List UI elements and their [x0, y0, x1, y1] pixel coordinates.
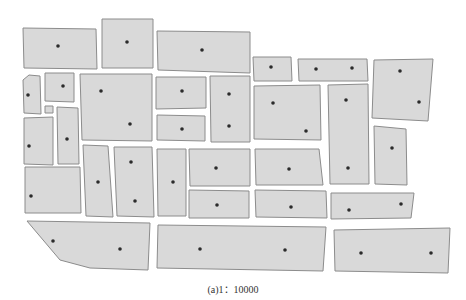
parcel-25 — [255, 149, 323, 185]
point-marker-icon — [215, 203, 219, 207]
parcel-14 — [254, 85, 321, 140]
point-marker-icon — [347, 208, 351, 212]
point-marker-icon — [129, 160, 133, 164]
parcel-map — [0, 0, 466, 300]
point-marker-icon — [214, 166, 218, 170]
parcel-16 — [374, 126, 407, 185]
point-marker-icon — [180, 127, 184, 131]
point-marker-icon — [304, 129, 308, 133]
point-marker-icon — [399, 202, 403, 206]
point-marker-icon — [287, 167, 291, 171]
point-marker-icon — [128, 122, 132, 126]
parcel-10 — [80, 74, 152, 141]
parcel-27 — [331, 193, 414, 219]
point-marker-icon — [346, 166, 350, 170]
parcel-6 — [372, 59, 433, 121]
point-marker-icon — [344, 98, 348, 102]
parcel-7 — [23, 75, 41, 114]
point-marker-icon — [269, 65, 273, 69]
point-marker-icon — [61, 84, 65, 88]
point-marker-icon — [398, 69, 402, 73]
point-marker-icon — [359, 251, 363, 255]
point-marker-icon — [417, 100, 421, 104]
parcel-21 — [114, 147, 154, 217]
parcel-11 — [156, 77, 206, 109]
point-marker-icon — [56, 44, 60, 48]
parcel-13 — [210, 76, 250, 142]
parcel-18 — [57, 107, 79, 164]
point-marker-icon — [27, 144, 31, 148]
point-marker-icon — [350, 66, 354, 70]
point-marker-icon — [390, 146, 394, 150]
parcel-17 — [24, 117, 53, 165]
point-marker-icon — [26, 93, 30, 97]
point-marker-icon — [283, 248, 287, 252]
point-marker-icon — [271, 101, 275, 105]
point-marker-icon — [133, 199, 137, 203]
point-marker-icon — [99, 89, 103, 93]
parcel-30 — [334, 228, 450, 273]
parcel-layer — [23, 19, 450, 273]
parcel-29 — [157, 225, 326, 271]
point-marker-icon — [200, 48, 204, 52]
parcel-8 — [45, 73, 74, 102]
parcel-5 — [298, 59, 368, 81]
point-marker-icon — [289, 205, 293, 209]
point-marker-icon — [51, 239, 55, 243]
point-marker-icon — [118, 247, 122, 251]
point-marker-icon — [227, 92, 231, 96]
figure-caption: (a)1：10000 — [0, 281, 466, 296]
point-marker-icon — [180, 89, 184, 93]
parcel-26 — [255, 190, 327, 218]
parcel-24 — [189, 190, 249, 218]
point-marker-icon — [429, 251, 433, 255]
point-marker-icon — [314, 67, 318, 71]
point-marker-icon — [227, 124, 231, 128]
point-marker-icon — [29, 194, 33, 198]
parcel-23 — [189, 149, 250, 186]
parcel-19 — [25, 167, 81, 213]
point-marker-icon — [125, 40, 129, 44]
parcel-4 — [253, 57, 292, 81]
point-marker-icon — [65, 137, 69, 141]
point-marker-icon — [96, 180, 100, 184]
parcel-28 — [27, 221, 150, 270]
point-marker-icon — [171, 180, 175, 184]
parcel-3 — [157, 31, 250, 73]
parcel-9 — [45, 106, 53, 113]
point-marker-icon — [198, 247, 202, 251]
parcel-1 — [23, 28, 97, 69]
